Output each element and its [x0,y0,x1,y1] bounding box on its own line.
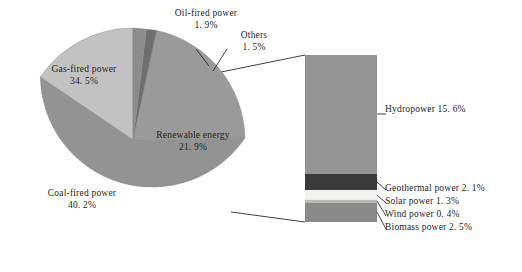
pie-label-oil-fired-power: Oil-fired power 1. 9% [160,8,252,31]
pie-chart [40,28,245,187]
pie-label-gas-fired-power-value: 34. 5% [36,76,132,88]
pie-label-others-name: Others [241,30,268,40]
bar-label-wind-power: Wind power 0. 4% [385,209,460,221]
pie-label-renewable-energy: Renewable energy 21. 9% [141,130,245,153]
pie-label-gas-fired-power-name: Gas-fired power [52,64,117,74]
connector-line-bottom [231,212,305,222]
bar-segment-geothermal-power [305,174,377,190]
pie-label-gas-fired-power: Gas-fired power 34. 5% [36,64,132,87]
pie-label-coal-fired-power-value: 40. 2% [30,200,134,212]
pie-label-coal-fired-power: Coal-fired power 40. 2% [30,188,134,211]
bar-segment-biomass-power [305,203,377,222]
bar-segment-solar-power [305,190,377,200]
bar-segment-wind-power [305,200,377,203]
bar-label-geothermal-power: Geothermal power 2. 1% [385,183,485,195]
bar-segment-hydropower [305,55,377,174]
pie-label-renewable-energy-value: 21. 9% [141,142,245,154]
bar-label-hydropower: Hydropower 15. 6% [385,104,466,116]
chart-figure: Gas-fired power 34. 5% Coal-fired power … [0,0,522,272]
connector-line-top [216,55,305,73]
pie-label-others-value: 1. 5% [228,42,280,54]
leader-line-others [213,49,227,71]
pie-label-oil-fired-power-name: Oil-fired power [175,8,237,18]
bar-label-biomass-power: Biomass power 2. 5% [385,222,472,234]
pie-label-others: Others 1. 5% [228,30,280,53]
pie-label-renewable-energy-name: Renewable energy [156,130,229,140]
pie-label-coal-fired-power-name: Coal-fired power [48,188,116,198]
bar-label-solar-power: Solar power 1. 3% [385,196,459,208]
breakout-stacked-bar [305,55,377,222]
